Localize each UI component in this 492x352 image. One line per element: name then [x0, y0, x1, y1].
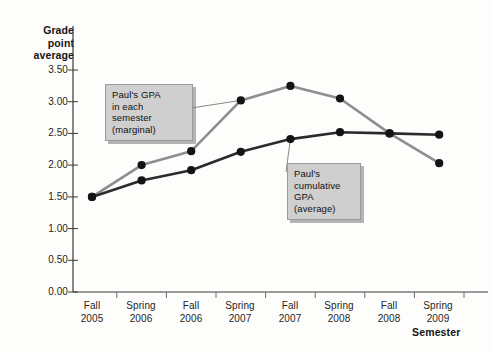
annotation-marginal-line-4: (marginal): [112, 124, 186, 136]
annotation-cumulative-line-1: Paul's: [294, 168, 354, 180]
annotation-cumulative-line-2: cumulative: [294, 180, 354, 192]
annotation-cumulative-line-3: GPA: [294, 191, 354, 203]
annotation-marginal: Paul's GPA in each semester (marginal): [105, 84, 193, 141]
annotation-marginal-line-3: semester: [112, 112, 186, 124]
axis-lines: [73, 26, 488, 292]
gpa-line-chart: Grade point average Semester 3.50 3.00 2…: [0, 0, 492, 352]
plot-area: [0, 0, 492, 352]
annotation-marginal-line-1: Paul's GPA: [112, 89, 186, 101]
annotation-leader-lines: [178, 100, 290, 172]
annotation-marginal-line-2: in each: [112, 101, 186, 113]
annotation-cumulative: Paul's cumulative GPA (average): [287, 163, 361, 220]
x-axis-ticks: [117, 292, 464, 298]
annotation-cumulative-line-4: (average): [294, 203, 354, 215]
